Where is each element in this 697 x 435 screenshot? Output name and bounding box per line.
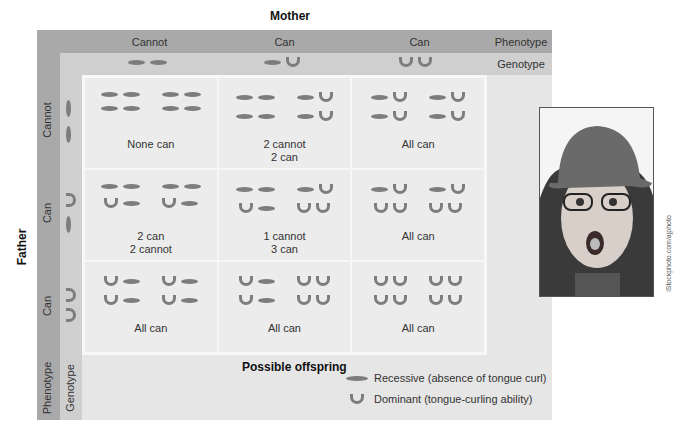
recessive-allele-icon <box>258 114 275 119</box>
offspring-genotype <box>374 295 407 305</box>
recessive-allele-icon <box>236 114 253 119</box>
recessive-allele-icon <box>258 187 275 192</box>
dominant-allele-icon <box>393 276 407 286</box>
dominant-allele-icon <box>239 276 253 286</box>
dominant-allele-icon <box>393 184 407 194</box>
recessive-allele-icon <box>184 184 201 189</box>
recessive-allele-icon <box>162 106 179 111</box>
recessive-allele-icon <box>128 60 145 65</box>
offspring-genotype <box>371 184 407 194</box>
cell-outcome-label: All can <box>352 138 484 151</box>
offspring-genotype <box>239 276 275 286</box>
offspring-genotypes <box>85 184 217 208</box>
recessive-allele-icon <box>184 92 201 97</box>
offspring-genotype <box>162 92 201 97</box>
recessive-allele-icon <box>258 95 275 100</box>
offspring-genotype <box>371 92 407 102</box>
recessive-allele-icon <box>371 187 388 192</box>
offspring-genotype <box>239 203 275 213</box>
offspring-genotype <box>239 295 275 305</box>
offspring-genotype <box>236 92 275 102</box>
cell-outcome-label: 2 cannot 2 can <box>219 138 351 164</box>
offspring-genotypes <box>352 92 484 121</box>
dominant-allele-icon <box>393 111 407 121</box>
legend-recessive-text: Recessive (absence of tongue curl) <box>374 372 546 384</box>
mother-genotype-col-1 <box>128 60 167 65</box>
offspring-genotype <box>374 276 407 286</box>
dominant-allele-icon <box>374 276 388 286</box>
dominant-allele-icon <box>162 295 176 305</box>
recessive-allele-icon <box>258 206 275 211</box>
dominant-allele-icon <box>286 57 300 67</box>
dominant-allele-icon <box>66 308 76 322</box>
offspring-genotypes <box>352 184 484 213</box>
father-phenotype-row-3: Can <box>41 281 53 331</box>
recessive-allele-icon <box>264 60 281 65</box>
offspring-genotype <box>236 111 275 121</box>
cell-outcome-label: None can <box>85 138 217 151</box>
offspring-genotype <box>104 295 140 305</box>
dominant-allele-icon <box>162 276 176 286</box>
dominant-allele-icon <box>451 184 465 194</box>
offspring-genotype <box>162 276 198 286</box>
offspring-genotype <box>101 184 140 189</box>
offspring-genotype <box>297 295 330 305</box>
recessive-allele-icon <box>150 60 167 65</box>
mother-genotype-col-3 <box>399 57 432 67</box>
dominant-allele-icon <box>297 276 311 286</box>
offspring-genotype <box>297 184 333 194</box>
dominant-allele-icon <box>448 295 462 305</box>
dominant-allele-icon <box>297 295 311 305</box>
possible-offspring-label: Possible offspring <box>242 360 347 374</box>
offspring-genotype <box>162 198 198 208</box>
offspring-genotype <box>429 203 462 213</box>
father-phenotype-row-1: Cannot <box>41 95 53 145</box>
punnett-grid: None can2 cannot 2 canAll can2 can 2 can… <box>82 75 487 355</box>
punnett-cell: All can <box>218 261 352 353</box>
recessive-allele-icon <box>162 184 179 189</box>
offspring-genotype <box>429 111 465 121</box>
dominant-allele-icon <box>316 203 330 213</box>
dominant-allele-icon <box>374 203 388 213</box>
recessive-allele-icon <box>123 298 140 303</box>
punnett-cell: 2 cannot 2 can <box>218 77 352 169</box>
legend-dominant-text: Dominant (tongue-curling ability) <box>374 393 532 405</box>
father-phenotype-row-2: Can <box>41 188 53 238</box>
dominant-allele-icon <box>316 276 330 286</box>
legend-recessive: Recessive (absence of tongue curl) <box>346 372 546 384</box>
offspring-genotype <box>101 106 140 111</box>
recessive-allele-icon <box>429 95 446 100</box>
cell-outcome-label: 2 can 2 cannot <box>85 230 217 256</box>
dominant-allele-icon <box>451 92 465 102</box>
recessive-allele-icon <box>258 279 275 284</box>
recessive-allele-icon <box>66 126 71 143</box>
dominant-allele-icon <box>104 276 118 286</box>
recessive-allele-icon <box>181 298 198 303</box>
recessive-allele-icon <box>101 106 118 111</box>
mother-phenotype-col-2: Can <box>217 36 352 48</box>
dominant-allele-icon <box>104 198 118 208</box>
offspring-genotype <box>104 198 140 208</box>
offspring-genotype <box>374 203 407 213</box>
recessive-allele-icon <box>346 376 368 381</box>
recessive-allele-icon <box>371 95 388 100</box>
cell-outcome-label: All can <box>219 322 351 335</box>
dominant-allele-icon <box>297 203 311 213</box>
offspring-genotype <box>297 92 333 102</box>
recessive-allele-icon <box>66 100 71 117</box>
father-genotype-row-3 <box>66 288 76 322</box>
offspring-genotype <box>371 111 407 121</box>
recessive-allele-icon <box>429 114 446 119</box>
father-title: Father <box>15 227 29 267</box>
punnett-cell: All can <box>351 261 485 353</box>
recessive-allele-icon <box>66 216 71 233</box>
offspring-genotype <box>162 184 201 189</box>
mother-genotype-col-2 <box>264 57 300 67</box>
cell-outcome-label: All can <box>352 322 484 335</box>
recessive-allele-icon <box>236 187 253 192</box>
dominant-allele-icon <box>451 111 465 121</box>
punnett-cell: 1 cannot 3 can <box>218 169 352 261</box>
punnett-cell: None can <box>84 77 218 169</box>
dominant-allele-icon <box>393 295 407 305</box>
dominant-allele-icon <box>319 92 333 102</box>
